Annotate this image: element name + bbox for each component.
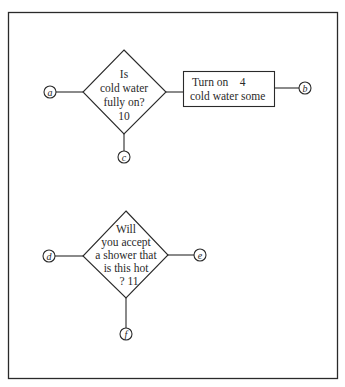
decision-node-11[interactable]: Will you accept a shower that is this ho… xyxy=(83,211,168,298)
connector-a[interactable]: a xyxy=(44,86,56,98)
decision-11-number: ? 11 xyxy=(119,275,138,287)
decision-node-10[interactable]: Is cold water fully on? 10 xyxy=(83,50,166,134)
process-4-line-2: cold water some xyxy=(190,90,265,102)
decision-11-line-2: you accept xyxy=(101,236,151,249)
decision-10-line-3: fully on? xyxy=(103,96,144,109)
decision-11-line-4: is this hot xyxy=(104,262,150,274)
connector-a-label: a xyxy=(48,87,53,98)
decision-10-line-2: cold water xyxy=(100,82,148,94)
decision-10-line-1: Is xyxy=(120,68,129,80)
connector-e[interactable]: e xyxy=(194,249,206,261)
connector-c[interactable]: c xyxy=(118,151,130,163)
connector-f[interactable]: f xyxy=(120,328,132,340)
frame-border xyxy=(9,13,338,379)
connector-c-label: c xyxy=(122,152,127,163)
flowchart-canvas: a Is cold water fully on? 10 Turn on 4 c… xyxy=(0,0,345,387)
decision-10-number: 10 xyxy=(118,110,130,122)
process-node-4[interactable]: Turn on 4 cold water some xyxy=(184,72,275,107)
connector-b[interactable]: b xyxy=(299,82,311,94)
decision-11-line-3: a shower that xyxy=(95,249,157,261)
decision-11-line-1: Will xyxy=(116,223,136,235)
connector-d[interactable]: d xyxy=(43,250,55,262)
process-4-line-1: Turn on 4 xyxy=(192,76,246,88)
connector-e-label: e xyxy=(198,250,203,261)
connector-b-label: b xyxy=(303,83,308,94)
